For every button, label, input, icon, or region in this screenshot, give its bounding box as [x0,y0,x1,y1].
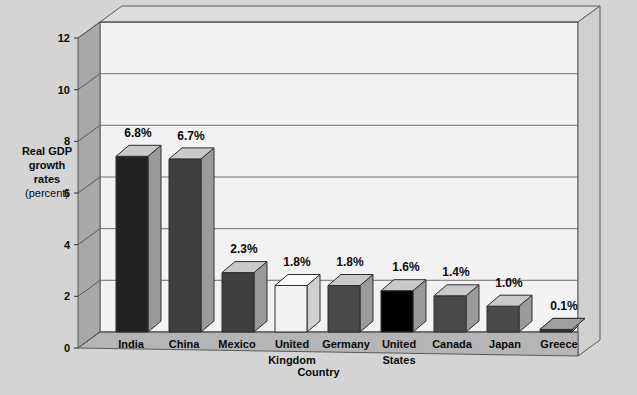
bar-india[interactable] [116,145,161,332]
bar-germany[interactable] [328,275,373,333]
x-tick-label-mexico: Mexico [218,338,255,350]
x-tick-label-china: China [169,338,200,350]
bar-china[interactable] [169,148,214,332]
y-axis-title-line-1: Real GDP [6,144,88,158]
data-label-united-states: 1.6% [392,260,419,274]
y-tick-label-2: 2 [52,290,70,302]
x-tick-label-united-states: United [382,338,416,350]
x-tick-label-greece: Greece [540,338,577,350]
y-axis-title-line-2: growth [6,158,88,172]
bar-united-states[interactable] [381,280,426,332]
data-label-united-kingdom: 1.8% [283,255,310,269]
x-axis-title: Country [0,366,637,378]
x-tick-label-germany: Germany [322,338,370,350]
x-tick-label-japan: Japan [489,338,521,350]
y-axis-title-line-4: (percent) [6,186,88,200]
data-label-japan: 1.0% [495,276,522,290]
chart-container: 0 2 4 6 8 10 12 Real GDP growth rates (p… [0,0,637,395]
y-tick-label-10: 10 [45,84,70,96]
y-tick-label-4: 4 [52,239,70,251]
x-tick-label-united-kingdom: United [275,338,309,350]
y-axis-title: Real GDP growth rates (percent) [6,144,88,200]
y-tick-label-12: 12 [45,32,70,44]
y-axis-title-line-3: rates [6,172,88,186]
data-label-india: 6.8% [124,126,151,140]
bar-canada[interactable] [434,285,479,332]
chart-top-surface [100,6,600,22]
x-tick-label-united-states-line2: States [382,354,415,366]
bar-united-kingdom[interactable] [275,275,320,333]
data-label-mexico: 2.3% [230,242,257,256]
y-tick-label-0: 0 [52,342,70,354]
chart-right-wall [578,6,600,356]
x-tick-label-united-kingdom-line2: Kingdom [268,354,316,366]
data-label-germany: 1.8% [336,255,363,269]
data-label-greece: 0.1% [550,299,577,313]
x-tick-label-india: India [118,338,144,350]
data-label-canada: 1.4% [442,265,469,279]
bar-mexico[interactable] [222,262,267,332]
bar-chart-graphic [0,0,637,395]
data-label-china: 6.7% [177,129,204,143]
x-tick-label-canada: Canada [432,338,472,350]
bar-japan[interactable] [487,295,532,332]
